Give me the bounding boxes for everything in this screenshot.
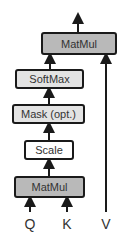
softmax-node: SoftMax xyxy=(15,69,84,89)
input-q-label: Q xyxy=(20,216,40,232)
input-k-label: K xyxy=(57,216,77,232)
input-v-label: V xyxy=(96,216,116,232)
scale-node: Scale xyxy=(24,140,74,160)
softmax-label: SoftMax xyxy=(29,73,69,85)
matmul-bottom-node: MatMul xyxy=(14,176,85,198)
matmul-top-node: MatMul xyxy=(41,32,117,55)
matmul-top-label: MatMul xyxy=(61,38,97,50)
mask-label: Mask (opt.) xyxy=(21,108,76,120)
scale-label: Scale xyxy=(35,144,63,156)
matmul-bottom-label: MatMul xyxy=(31,181,67,193)
mask-node: Mask (opt.) xyxy=(12,104,85,124)
